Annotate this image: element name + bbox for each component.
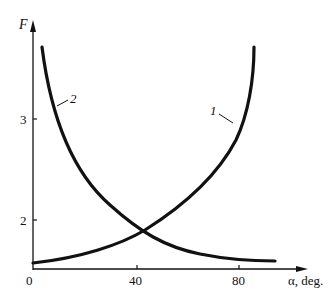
y-axis-label: F	[19, 18, 28, 32]
x-axis-label: α, deg.	[288, 274, 323, 287]
y-axis-arrow-icon	[30, 20, 36, 32]
chart-canvas	[0, 0, 336, 298]
x-tick-label-40: 40	[129, 274, 142, 287]
y-tick-label-2: 2	[20, 214, 27, 227]
x-tick-label-80: 80	[232, 274, 245, 287]
curve-2-leader	[57, 100, 68, 106]
curve-1-leader	[219, 114, 233, 123]
origin-label: 0	[26, 274, 33, 287]
curve-1-label: 1	[210, 104, 217, 117]
x-axis-arrow-icon	[296, 266, 308, 272]
y-tick-label-3: 3	[20, 113, 27, 126]
curve-2	[42, 47, 275, 261]
curve-2-label: 2	[70, 92, 77, 105]
